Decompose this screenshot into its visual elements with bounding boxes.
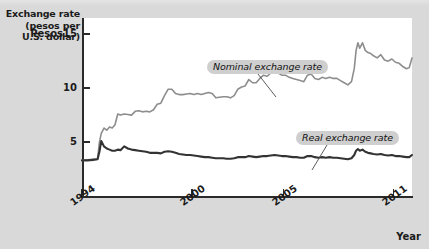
y-axis-tick-label-15: Pesos15 (30, 28, 77, 39)
y-axis-tick-label-10: 10 (63, 82, 77, 93)
plot-area (82, 18, 412, 196)
x-axis-title: Year (396, 231, 421, 242)
y-axis-line (82, 18, 84, 198)
nominal-exchange-rate-annotation: Nominal exchange rate (207, 60, 328, 74)
y-axis-tick-15 (83, 33, 90, 35)
y-axis-tick-10 (83, 87, 90, 89)
y-axis-tick-label-5: 5 (70, 136, 77, 147)
exchange-rate-chart-figure: Exchange rate (pesos per U.S. dollar) 51… (0, 0, 429, 249)
x-axis-line (82, 196, 413, 198)
y-axis-tick-5 (83, 141, 90, 143)
real-exchange-rate-annotation: Real exchange rate (296, 131, 399, 145)
y-axis-title-line-1: Exchange rate (2, 8, 80, 20)
